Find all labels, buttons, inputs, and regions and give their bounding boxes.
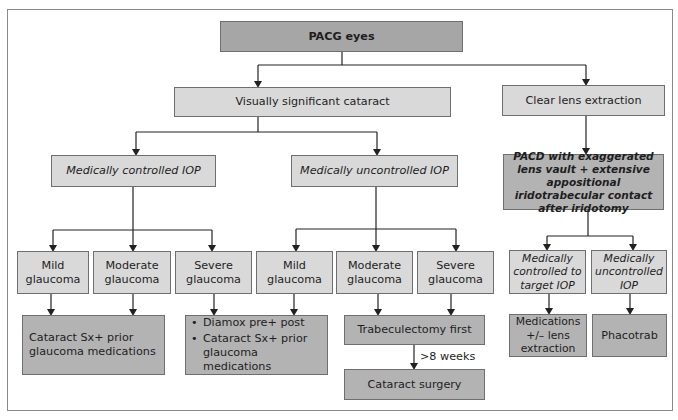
node-label: Mild glaucoma <box>21 259 85 287</box>
node-label: Medically controlled IOP <box>66 164 201 178</box>
node-moderate-glaucoma-uncontrolled: Moderate glaucoma <box>336 251 413 294</box>
node-label: Visually significant cataract <box>235 95 389 109</box>
node-label: Severe glaucoma <box>179 259 248 287</box>
node-severe-glaucoma-uncontrolled: Severe glaucoma <box>417 251 494 294</box>
outcome-medications-lens-extraction: Medications +/– lens extraction <box>509 314 587 357</box>
outcome-trabeculectomy-first: Trabeculectomy first <box>344 315 485 345</box>
outcome-label: Trabeculectomy first <box>357 323 471 337</box>
outcome-label: Cataract Sx+ prior glaucoma medications <box>29 331 161 359</box>
node-controlled-to-target-iop: Medically controlled to target IOP <box>509 250 586 294</box>
node-label: Medically uncontrolled IOP <box>300 164 449 178</box>
bullet-item: Cataract Sx+ prior glaucoma medications <box>203 332 324 374</box>
bullet-item: Diamox pre+ post <box>203 316 324 330</box>
node-severe-glaucoma-controlled: Severe glaucoma <box>175 251 252 294</box>
node-label: PACG eyes <box>308 30 374 44</box>
node-label: Moderate glaucoma <box>340 259 409 287</box>
node-visually-significant-cataract: Visually significant cataract <box>174 87 451 117</box>
outcome-cataract-surgery: Cataract surgery <box>344 369 485 400</box>
node-label: Severe glaucoma <box>421 259 490 287</box>
node-label: Medically uncontrolled IOP <box>595 252 663 293</box>
outcome-cataract-sx-prior-meds: Cataract Sx+ prior glaucoma medications <box>22 315 165 375</box>
node-label: Mild glaucoma <box>260 259 329 287</box>
outcome-label: Medications +/– lens extraction <box>513 315 583 356</box>
node-medically-uncontrolled-iop: Medically uncontrolled IOP <box>291 155 458 187</box>
node-pacd: PACD with exaggerated lens vault + exten… <box>503 154 664 210</box>
outcome-bullet-list: Diamox pre+ post Cataract Sx+ prior glau… <box>189 314 324 376</box>
outcome-label: Phacotrab <box>601 329 658 343</box>
outcome-label: Cataract surgery <box>368 378 462 392</box>
node-label: Medically controlled to target IOP <box>513 252 582 293</box>
node-mild-glaucoma-controlled: Mild glaucoma <box>17 251 89 294</box>
outcome-diamox: Diamox pre+ post Cataract Sx+ prior glau… <box>185 315 328 375</box>
node-label: PACD with exaggerated lens vault + exten… <box>507 150 660 215</box>
node-mild-glaucoma-uncontrolled: Mild glaucoma <box>256 251 333 294</box>
interval-label: >8 weeks <box>420 350 475 363</box>
node-uncontrolled-iop-pacd: Medically uncontrolled IOP <box>591 250 667 294</box>
node-moderate-glaucoma-controlled: Moderate glaucoma <box>93 251 171 294</box>
node-pacg-eyes: PACG eyes <box>220 21 463 52</box>
node-medically-controlled-iop: Medically controlled IOP <box>51 155 216 187</box>
node-clear-lens-extraction: Clear lens extraction <box>502 85 665 116</box>
outcome-phacotrab: Phacotrab <box>592 314 667 357</box>
node-label: Clear lens extraction <box>525 94 641 108</box>
node-label: Moderate glaucoma <box>97 259 167 287</box>
